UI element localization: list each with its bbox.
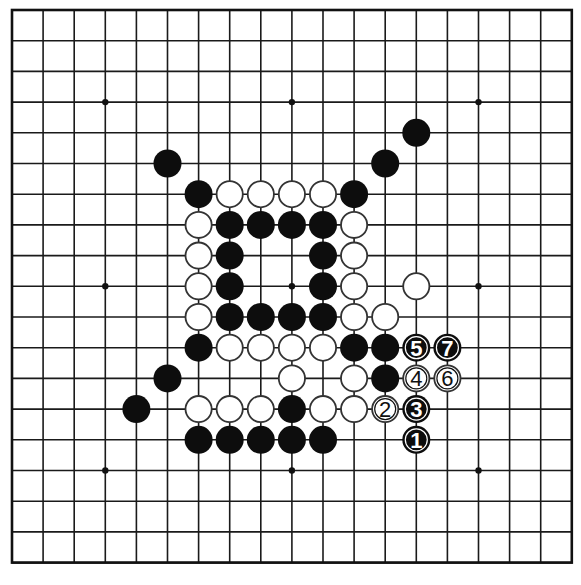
white-stone: [217, 396, 243, 422]
numbered-white-stone: 6: [434, 365, 460, 391]
white-stone: [341, 212, 367, 238]
game-board[interactable]: 1234567: [0, 0, 581, 585]
white-stone: [186, 243, 212, 269]
black-stone: [278, 395, 306, 423]
numbered-white-stone: 4: [403, 365, 429, 391]
black-stone: [278, 303, 306, 331]
black-stone: [371, 150, 399, 178]
move-number-label: 3: [410, 397, 422, 422]
black-stone: [340, 334, 368, 362]
black-stone: [154, 150, 182, 178]
star-point: [102, 467, 108, 473]
white-stone: [248, 335, 274, 361]
black-stone: [340, 180, 368, 208]
white-stone: [341, 396, 367, 422]
white-stone: [341, 365, 367, 391]
black-stone: [185, 334, 213, 362]
black-stone: [216, 211, 244, 239]
white-stone: [186, 304, 212, 330]
white-stone: [341, 304, 367, 330]
black-stone: [216, 303, 244, 331]
numbered-white-stone: 2: [372, 396, 398, 422]
white-stone: [186, 396, 212, 422]
move-number-label: 6: [441, 366, 453, 391]
black-stone: [247, 211, 275, 239]
star-point: [475, 99, 481, 105]
black-stone: [216, 426, 244, 454]
white-stone: [186, 273, 212, 299]
black-stone: [247, 303, 275, 331]
black-stone: [154, 364, 182, 392]
black-stone: [185, 426, 213, 454]
white-stone: [403, 273, 429, 299]
black-stone: [371, 334, 399, 362]
black-stone: [309, 211, 337, 239]
black-stone: [247, 426, 275, 454]
black-stone: [402, 119, 430, 147]
white-stone: [310, 396, 336, 422]
numbered-black-stone: 5: [402, 334, 430, 362]
white-stone: [341, 273, 367, 299]
black-stone: [309, 272, 337, 300]
numbered-black-stone: 3: [402, 395, 430, 423]
star-point: [475, 467, 481, 473]
white-stone: [279, 365, 305, 391]
white-stone: [372, 304, 398, 330]
move-number-label: 1: [410, 428, 422, 453]
black-stone: [278, 211, 306, 239]
white-stone: [310, 335, 336, 361]
white-stone: [310, 181, 336, 207]
move-number-label: 2: [379, 397, 391, 422]
black-stone: [216, 272, 244, 300]
star-point: [289, 467, 295, 473]
numbered-black-stone: 7: [433, 334, 461, 362]
white-stone: [248, 181, 274, 207]
white-stone: [279, 181, 305, 207]
star-point: [102, 99, 108, 105]
white-stone: [217, 181, 243, 207]
black-stone: [278, 426, 306, 454]
black-stone: [309, 242, 337, 270]
star-point: [102, 283, 108, 289]
white-stone: [279, 335, 305, 361]
black-stone: [185, 180, 213, 208]
numbered-black-stone: 1: [402, 426, 430, 454]
white-stone: [217, 335, 243, 361]
black-stone: [122, 395, 150, 423]
black-stone: [309, 426, 337, 454]
star-point: [475, 283, 481, 289]
white-stone: [341, 243, 367, 269]
white-stone: [186, 212, 212, 238]
move-number-label: 7: [441, 336, 453, 361]
black-stone: [309, 303, 337, 331]
move-number-label: 5: [410, 336, 422, 361]
black-stone: [216, 242, 244, 270]
star-point: [289, 283, 295, 289]
white-stone: [248, 396, 274, 422]
move-number-label: 4: [410, 366, 422, 391]
star-point: [289, 99, 295, 105]
black-stone: [371, 364, 399, 392]
